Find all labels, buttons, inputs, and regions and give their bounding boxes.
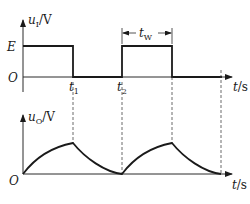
level-e-label: E (6, 40, 16, 54)
t1-label: t1 (69, 80, 79, 96)
top-origin-label: O (8, 71, 18, 85)
input-square-wave (23, 46, 222, 77)
output-waveform-plot: uO/V O t/s (9, 110, 247, 192)
top-y-axis-label: uI/V (28, 13, 52, 29)
alignment-guides (73, 70, 221, 174)
input-waveform-plot: uI/V E O t1 t2 tW t/s (6, 13, 248, 96)
waveform-diagram: uI/V E O t1 t2 tW t/s uO/V O t/s (0, 0, 250, 204)
top-x-axis-label: t/s (233, 80, 248, 94)
tw-label: tW (139, 26, 153, 42)
bottom-x-axis-label: t/s (232, 178, 247, 192)
bottom-origin-label: O (9, 174, 19, 188)
bottom-y-axis-label: uO/V (28, 110, 55, 126)
